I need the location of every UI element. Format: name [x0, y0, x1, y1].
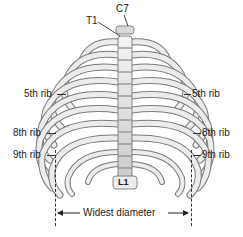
arrow-left-icon: [57, 210, 63, 216]
arrow-right-icon: [183, 210, 189, 216]
rib-cage-diagram: C7 T1 L1 5th rib 8th rib 9th rib 5th rib…: [0, 0, 243, 237]
label-widest-diameter: Widest diameter: [83, 208, 155, 218]
diameter-arrows: [0, 0, 243, 237]
